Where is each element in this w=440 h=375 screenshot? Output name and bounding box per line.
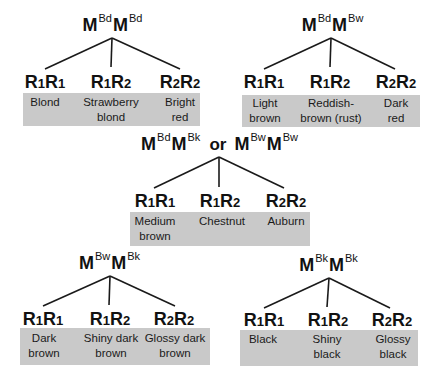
genotype-r2r2: R2R2 [372, 310, 412, 331]
parent-genotype: MBdMBd [83, 15, 144, 36]
parent-genotype: MBdMBw [302, 15, 365, 36]
genotype-r1r2: R1R2 [200, 191, 240, 212]
genotype-r2r2: R2R2 [266, 191, 306, 212]
phenotype-label: Darkbrown [28, 331, 59, 361]
phenotype-label: Darkred [384, 96, 408, 126]
phenotype-label: Reddish-brown (rust) [300, 96, 361, 126]
phenotype-label: Mediumbrown [135, 214, 176, 244]
genotype-r1r1: R1R1 [25, 72, 65, 93]
phenotype-label: Glossyblack [375, 332, 410, 362]
phenotype-label: Shiny darkbrown [84, 331, 138, 361]
genotype-r1r1: R1R1 [135, 191, 175, 212]
genotype-r1r1: R1R1 [23, 309, 63, 330]
parent-genotype: MBwMBk [79, 253, 141, 274]
phenotype-label: Black [249, 332, 277, 347]
phenotype-label: Chestnut [199, 214, 245, 229]
parent-genotype: MBkMBk [299, 255, 359, 276]
phenotype-label: Blond [30, 95, 59, 110]
genotype-r1r1: R1R1 [244, 72, 284, 93]
parent-genotype: MBdMBkorMBwMBw [141, 134, 299, 155]
genotype-r1r2: R1R2 [310, 72, 350, 93]
phenotype-label: Glossy darkbrown [145, 331, 206, 361]
genotype-r1r2: R1R2 [308, 310, 348, 331]
phenotype-label: Shinyblack [313, 332, 342, 362]
phenotype-label: Auburn [267, 214, 304, 229]
genotype-r1r2: R1R2 [91, 72, 131, 93]
genotype-r2r2: R2R2 [160, 72, 200, 93]
phenotype-label: Strawberryblond [83, 95, 139, 125]
phenotype-label: Lightbrown [249, 96, 280, 126]
genotype-r1r2: R1R2 [90, 309, 130, 330]
genotype-r2r2: R2R2 [376, 72, 416, 93]
genotype-r1r1: R1R1 [244, 310, 284, 331]
genotype-r2r2: R2R2 [154, 309, 194, 330]
phenotype-label: Brightred [165, 95, 195, 125]
